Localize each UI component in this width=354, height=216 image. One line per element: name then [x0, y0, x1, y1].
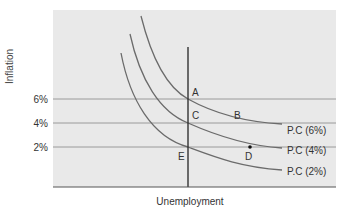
point-d-marker — [248, 145, 252, 149]
point-c-label: C — [192, 110, 199, 121]
curve-label-pc-4: P.C (4%) — [287, 145, 326, 156]
y-tick-2: 2% — [18, 142, 48, 153]
point-d-label: D — [245, 151, 252, 162]
plot-area-mask-2 — [282, 100, 336, 122]
y-axis-label: Inflation — [4, 49, 15, 84]
y-tick-6: 6% — [18, 94, 48, 105]
y-tick-4: 4% — [18, 118, 48, 129]
curve-label-pc-6: P.C (6%) — [287, 125, 326, 136]
x-axis-label: Unemployment — [150, 196, 230, 207]
point-e-label: E — [178, 151, 185, 162]
phillips-curve-diagram: Inflation 6% 4% 2% A B C D E P.C (6%) P.… — [0, 0, 354, 216]
point-b-label: B — [234, 110, 241, 121]
chart-svg — [0, 0, 354, 216]
curve-label-pc-2: P.C (2%) — [287, 166, 326, 177]
point-a-label: A — [192, 87, 199, 98]
